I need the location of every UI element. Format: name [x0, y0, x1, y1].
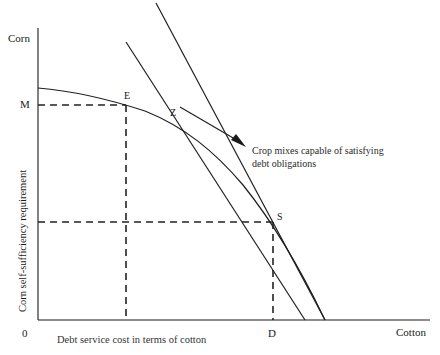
point-label-e: E — [124, 90, 130, 102]
origin-tick-label: 0 — [22, 327, 28, 340]
annotation-line-2: debt obligations — [252, 157, 316, 170]
plot-canvas — [0, 0, 440, 355]
budget-line-steep — [126, 42, 305, 320]
arrow-head — [231, 134, 246, 147]
economics-figure: Corn Cotton Corn self-sufficiency requir… — [0, 0, 440, 355]
arrow-shaft — [180, 107, 240, 142]
y-tick-label-m: M — [20, 98, 30, 111]
x-tick-label-d: D — [268, 327, 276, 340]
point-label-s: S — [277, 211, 283, 223]
point-label-z: Z — [170, 107, 176, 119]
x-axis-title: Cotton — [396, 326, 426, 339]
y-axis-title: Corn — [8, 32, 30, 45]
y-axis-description: Corn self-sufficiency requirement — [17, 172, 29, 312]
x-axis-caption: Debt service cost in terms of cotton — [57, 334, 206, 346]
annotation-line-1: Crop mixes capable of satisfying — [252, 144, 384, 157]
